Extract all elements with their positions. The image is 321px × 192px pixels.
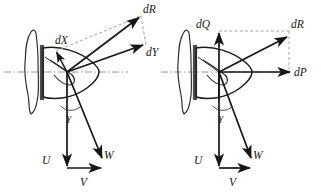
right-label-dQ: dQ [196, 18, 211, 30]
left-label-dR: dR [143, 3, 156, 15]
right-label-dP: dP [294, 66, 307, 78]
right-label-dR: dR [291, 18, 304, 30]
left-label-dY: dY [146, 46, 160, 58]
left-label-U: U [42, 154, 51, 166]
right-label-U: U [194, 154, 203, 166]
left-label-dX: dX [55, 34, 69, 46]
left-label-W: W [104, 149, 115, 161]
right-label-W: W [253, 149, 264, 161]
figure-canvas: dR dX dY γ U V W [0, 0, 321, 192]
blade-element-vector-figure: dR dX dY γ U V W [0, 0, 321, 192]
